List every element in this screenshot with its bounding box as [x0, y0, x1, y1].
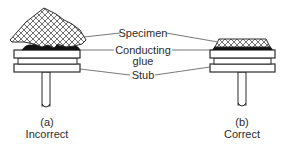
stub-pin-a [42, 72, 50, 107]
stub-pin-b [238, 72, 246, 106]
specimen-mounting-diagram: Specimen Conducting glue Stub (a) Incorr… [0, 0, 283, 145]
label-stub: Stub [132, 69, 155, 81]
panel-a-incorrect [10, 8, 86, 107]
stub-b [210, 50, 275, 72]
specimen-b [215, 39, 270, 47]
label-specimen: Specimen [119, 27, 168, 39]
caption-b-letter: (b) [235, 116, 248, 128]
label-glue: glue [133, 55, 154, 67]
specimen-a [10, 8, 86, 48]
caption-a-text: Incorrect [26, 128, 69, 140]
caption-a-letter: (a) [40, 116, 53, 128]
panel-b-correct [210, 39, 275, 106]
stub-a [14, 50, 80, 72]
caption-b-text: Correct [224, 128, 260, 140]
